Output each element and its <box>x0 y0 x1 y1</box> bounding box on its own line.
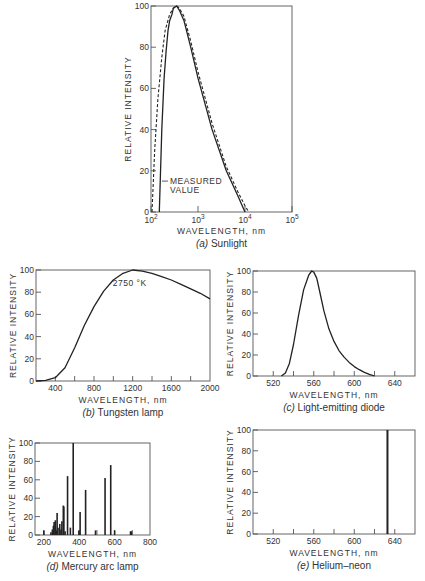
y-tick-label: 0 <box>28 530 33 540</box>
chart-c: 020406080100520560600640RELATIVE INTENSI… <box>225 266 415 413</box>
chart-d: 020406080100200400600800RELATIVE INTENSI… <box>7 436 157 572</box>
x-axis-label: WAVELENGTH, nm <box>289 548 378 558</box>
caption: (d) Mercury arc lamp <box>46 561 139 572</box>
x-tick-label: 2000 <box>201 383 220 393</box>
x-tick-label: 560 <box>307 536 321 546</box>
y-tick-label: 40 <box>242 329 252 339</box>
spectra-figure: 020406080100102103104105RELATIVE INTENSI… <box>0 0 425 581</box>
plot-frame <box>35 443 150 535</box>
x-axis-label: WAVELENGTH, nm <box>289 390 378 400</box>
y-tick-label: 60 <box>242 308 252 318</box>
y-tick-label: 20 <box>24 512 34 522</box>
x-tick-label: 400 <box>72 537 86 547</box>
y-tick-label: 40 <box>25 332 35 342</box>
y-tick-label: 80 <box>24 456 34 466</box>
y-tick-label: 20 <box>242 508 252 518</box>
y-axis-label: RELATIVE INTENSITY <box>8 273 18 378</box>
x-tick-label: 102 <box>144 213 157 225</box>
svg-text:VALUE: VALUE <box>170 185 200 195</box>
y-tick-label: 20 <box>242 350 252 360</box>
x-tick-label: 600 <box>108 537 122 547</box>
y-tick-label: 60 <box>140 83 150 93</box>
x-tick-label: 103 <box>191 213 204 225</box>
x-tick-label: 1600 <box>162 383 181 393</box>
y-tick-label: 80 <box>25 287 35 297</box>
y-tick-label: 100 <box>237 266 251 276</box>
plot-frame <box>253 430 415 534</box>
x-tick-label: 105 <box>285 213 298 225</box>
y-tick-label: 100 <box>237 425 251 435</box>
y-tick-label: 60 <box>242 467 252 477</box>
caption: (b) Tungsten lamp <box>83 407 164 418</box>
y-tick-label: 80 <box>242 287 252 297</box>
x-tick-label: 640 <box>388 378 402 388</box>
y-tick-label: 60 <box>25 309 35 319</box>
x-tick-label: 1200 <box>123 383 142 393</box>
caption: (c) Light-emitting diode <box>283 402 385 413</box>
y-tick-label: 40 <box>140 125 150 135</box>
x-tick-label: 600 <box>347 536 361 546</box>
x-tick-label: 104 <box>238 213 251 225</box>
y-tick-label: 20 <box>140 166 150 176</box>
caption: (e) Helium–neon <box>297 560 371 571</box>
plot-frame <box>253 271 415 376</box>
y-tick-label: 100 <box>135 1 149 11</box>
x-tick-label: 600 <box>347 378 361 388</box>
x-tick-label: 560 <box>307 378 321 388</box>
x-tick-label: 200 <box>37 537 51 547</box>
y-axis-label: RELATIVE INTENSITY <box>225 271 235 376</box>
temperature-annotation: 2750 °K <box>113 278 147 288</box>
x-tick-label: 400 <box>48 383 62 393</box>
y-axis-label: RELATIVE INTENSITY <box>123 56 133 161</box>
x-tick-label: 520 <box>266 536 280 546</box>
x-tick-label: 800 <box>87 383 101 393</box>
series-line <box>281 271 374 376</box>
x-axis-label: WAVELENGTH, nm <box>48 549 137 559</box>
chart-b: 020406080100400800120016002000RELATIVE I… <box>8 265 220 418</box>
y-tick-label: 80 <box>140 42 150 52</box>
x-tick-label: 640 <box>388 536 402 546</box>
y-tick-label: 0 <box>246 529 251 539</box>
y-tick-label: 100 <box>20 265 34 275</box>
x-axis-label: WAVELENGTH, nm <box>78 395 167 405</box>
y-axis-label: RELATIVE INTENSITY <box>225 429 235 534</box>
y-axis-label: RELATIVE INTENSITY <box>7 436 17 541</box>
y-tick-label: 0 <box>29 376 34 386</box>
chart-e: 020406080100520560600640RELATIVE INTENSI… <box>225 425 415 571</box>
caption: (a) Sunlight <box>196 238 247 249</box>
y-tick-label: 20 <box>25 354 35 364</box>
y-tick-label: 0 <box>246 371 251 381</box>
y-tick-label: 80 <box>242 446 252 456</box>
y-tick-label: 40 <box>24 493 34 503</box>
x-tick-label: 520 <box>266 378 280 388</box>
y-tick-label: 100 <box>19 438 33 448</box>
chart-a: 020406080100102103104105RELATIVE INTENSI… <box>123 1 299 249</box>
y-tick-label: 40 <box>242 487 252 497</box>
x-tick-label: 800 <box>143 537 157 547</box>
y-tick-label: 60 <box>24 475 34 485</box>
x-axis-label: WAVELENGTH, nm <box>177 226 266 236</box>
